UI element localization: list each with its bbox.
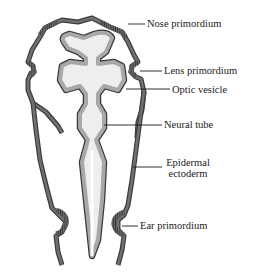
label-neural-tube: Neural tube xyxy=(164,119,213,130)
label-optic-vesicle: Optic vesicle xyxy=(172,84,227,95)
embryo-diagram xyxy=(0,0,253,276)
leader-lines xyxy=(104,24,170,226)
label-epidermal-line1: Epidermal xyxy=(164,157,212,168)
label-nose-primordium: Nose primordium xyxy=(147,18,221,29)
label-lens-primordium: Lens primordium xyxy=(164,65,237,76)
label-epidermal-line2: ectoderm xyxy=(164,168,212,179)
label-epidermal-ectoderm: Epidermal ectoderm xyxy=(164,157,212,179)
label-ear-primordium: Ear primordium xyxy=(140,220,207,231)
